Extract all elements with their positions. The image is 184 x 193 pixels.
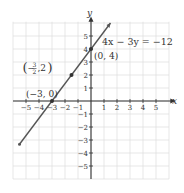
- point-marker: [50, 99, 54, 103]
- line-end-icon: [18, 143, 21, 146]
- fraction-denominator: 2: [33, 68, 37, 75]
- x-tick-label: −2: [60, 104, 70, 112]
- y-tick-label: 3: [84, 59, 88, 67]
- y-tick-label: 1: [84, 85, 88, 93]
- x-tick-label: −5: [21, 104, 31, 112]
- fraction-numerator: 3: [33, 61, 37, 68]
- x-tick-label: 2: [115, 104, 119, 112]
- x-tick-label: 1: [102, 104, 106, 112]
- y-axis-label: y: [86, 8, 93, 18]
- y-tick-label: 2: [84, 72, 88, 80]
- y-tick-label: −3: [78, 137, 88, 145]
- point-label: (0, 4): [94, 51, 118, 61]
- point-label: ,2: [38, 63, 47, 73]
- x-tick-label: 4: [141, 104, 146, 112]
- x-tick-label: 3: [128, 104, 132, 112]
- x-tick-label: 5: [154, 104, 158, 112]
- point-marker: [89, 47, 93, 51]
- y-tick-label: −5: [78, 163, 88, 171]
- point-marker: [70, 73, 74, 77]
- y-tick-label: 5: [84, 33, 88, 41]
- y-tick-label: −4: [78, 150, 89, 158]
- line-series: [18, 23, 111, 146]
- y-tick-label: −2: [78, 124, 88, 132]
- point-label-paren: ): [48, 60, 53, 75]
- x-tick-label: −4: [34, 104, 45, 112]
- x-axis-label: x: [172, 96, 177, 106]
- y-tick-label: −1: [78, 111, 88, 119]
- coordinate-plane: −5−4−3−2−11234554321−1−2−3−4−5 (−3, 0)(0…: [0, 0, 184, 193]
- point-label: (−3, 0): [26, 89, 58, 99]
- equation-label: 4x − 3y = −12: [102, 36, 173, 47]
